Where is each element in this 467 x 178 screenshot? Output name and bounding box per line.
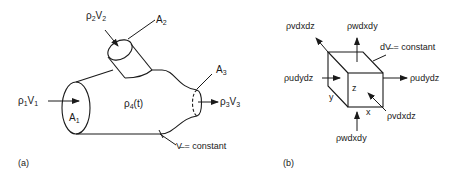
interior-density-label: ρ4(t) (124, 99, 143, 110)
volume-constant-label: V̶ = constant (176, 142, 226, 151)
front-flux-label: ρvdxdz (387, 112, 416, 121)
diagram-canvas (0, 0, 467, 178)
right-flux-label: ρudydz (410, 74, 439, 83)
area1-label: A1 (69, 113, 80, 124)
panel-b-caption: (b) (283, 159, 294, 168)
inlet2-label: ρ2V2 (86, 11, 106, 22)
axis-y-label: y (329, 93, 334, 102)
outlet3-label: ρ3V3 (220, 97, 240, 108)
axis-x-label: x (366, 108, 371, 117)
area2-label: A2 (156, 15, 167, 26)
left-flux-label: ρudydz (284, 74, 313, 83)
cube-volume-label: dV̶ = constant (380, 43, 435, 52)
axis-z-label: z (352, 84, 357, 93)
control-volume-pipe (62, 36, 202, 134)
bottom-flux-label: ρwdxdy (336, 134, 367, 143)
top-flux-label: ρwdxdy (347, 22, 378, 31)
panel-a-caption: (a) (18, 159, 29, 168)
inlet1-label: ρ1V1 (18, 96, 38, 107)
back-flux-label: ρvdxdz (286, 22, 315, 31)
area3-label: A3 (216, 65, 227, 76)
